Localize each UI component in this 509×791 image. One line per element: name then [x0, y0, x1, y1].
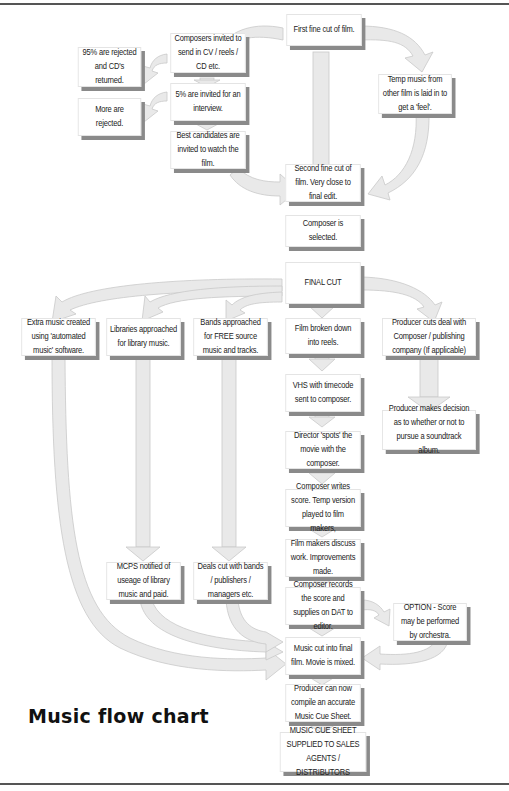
- arrow-interview-to-more: [143, 92, 167, 122]
- arrow-option-to-musiccut: [362, 640, 448, 670]
- arrow-final-to-reels: [309, 302, 335, 318]
- node-bands: Bands approached for FREE source music a…: [193, 318, 268, 356]
- node-mcps: MCPS notified of useage of library music…: [106, 562, 181, 600]
- node-spots: Director 'spots' the movie with the comp…: [285, 431, 360, 469]
- node-first-cut: First fine cut of film.: [286, 14, 361, 46]
- arrow-bands-to-deals: [212, 357, 246, 561]
- node-cue-sheet-supplied: MUSIC CUE SHEET SUPPLIED TO SALES AGENTS…: [280, 732, 366, 772]
- arrow-temp-to-second: [368, 113, 429, 200]
- node-extra-music: Extra music created using 'automated mus…: [21, 318, 96, 356]
- node-producer-deal: Producer cuts deal with Composer / publi…: [382, 318, 476, 356]
- node-libraries: Libraries approached for library music.: [106, 318, 181, 356]
- flow-arrows: .a { fill: #e9e9e9; stroke: #c9c9c9; str…: [0, 0, 509, 791]
- chart-title: Music flow chart: [28, 705, 209, 727]
- arrow-records-to-option: [362, 600, 390, 626]
- arrow-reels-to-vhs: [309, 352, 335, 371]
- node-final-cut: FINAL CUT: [285, 262, 360, 304]
- node-music-cut: Music cut into final film. Movie is mixe…: [285, 637, 360, 675]
- node-best-candidates: Best candidates are invited to watch the…: [170, 131, 245, 169]
- node-cue-sheet-compile: Producer can now compile an accurate Mus…: [285, 684, 360, 722]
- node-deals-bands: Deals cut with bands / publishers / mana…: [193, 562, 268, 600]
- node-discuss: Film makers discuss work. Improvements m…: [285, 539, 360, 577]
- node-records: Composer records the score and supplies …: [285, 587, 360, 625]
- node-vhs: VHS with timecode sent to composer.: [285, 374, 360, 412]
- arrow-first-to-temp: [360, 26, 433, 72]
- node-reels: Film broken down into reels.: [285, 318, 360, 354]
- node-second-cut: Second fine cut of film. Very close to f…: [285, 164, 360, 202]
- node-writes-score: Composer writes score. Temp version play…: [285, 489, 360, 527]
- arrow-libraries-to-mcps: [126, 357, 160, 561]
- node-rejected-95: 95% are rejected and CD's returned.: [78, 47, 141, 87]
- arrow-vhs-to-spots: [309, 414, 335, 427]
- node-soundtrack-decision: Producer makes decision as to whether or…: [382, 410, 476, 450]
- node-temp-music: Temp music from other film is laid in to…: [378, 74, 452, 114]
- node-composer-selected: Composer is selected.: [285, 215, 360, 247]
- node-composers-invited: Composers invited to send in CV / reels …: [170, 33, 245, 73]
- node-option-orchestra: OPTION - Score may be performed by orche…: [393, 603, 467, 641]
- arrow-composers-to-rejected: [143, 54, 167, 84]
- node-more-rejected: More are rejected.: [78, 98, 141, 136]
- node-invited-5: 5% are invited for an interview.: [170, 83, 245, 121]
